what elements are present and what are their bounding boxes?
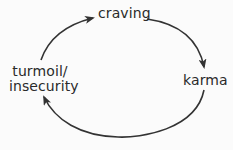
node-turmoil-line1: turmoil/	[9, 64, 71, 79]
edge-karma-to-turmoil-arrow	[44, 90, 204, 137]
node-turmoil-line2: insecurity	[9, 79, 71, 94]
edge-turmoil-to-craving-arrow	[41, 18, 93, 60]
node-craving: craving	[98, 6, 151, 20]
cycle-diagram: craving karma turmoil/ insecurity	[0, 0, 233, 150]
edge-craving-to-karma-arrow	[147, 19, 204, 67]
node-karma: karma	[183, 73, 228, 87]
node-turmoil-insecurity: turmoil/ insecurity	[9, 64, 71, 94]
